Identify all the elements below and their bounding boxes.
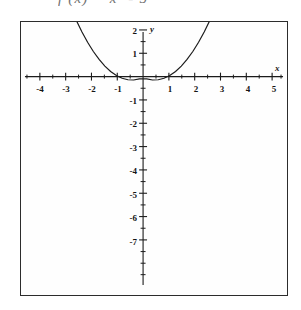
y-tick-label-neg3: -3 [120, 143, 137, 153]
y-tick-label-neg2: -2 [120, 119, 137, 129]
x-tick-label-neg2: -2 [88, 84, 96, 94]
x-tick-label-4: 4 [246, 84, 251, 94]
x-tick-label-5: 5 [272, 84, 277, 94]
y-axis-label: y [150, 24, 154, 34]
equation-title-strip: f (x) = x2 - 5 [0, 0, 301, 11]
x-axis-label: x [275, 63, 280, 73]
x-tick-label-neg1: -1 [114, 84, 122, 94]
equation-title: f (x) = x2 - 5 [58, 0, 148, 7]
x-tick-label-1: 1 [168, 84, 173, 94]
equation-suffix: - 5 [123, 0, 148, 6]
y-tick-label-1: 1 [124, 49, 137, 59]
x-tick-label-neg3: -3 [62, 84, 70, 94]
graph-frame: -4 -3 -2 -1 1 2 3 4 5 2 1 -1 -2 -3 -4 -5… [20, 21, 288, 296]
y-tick-label-neg5: -5 [120, 190, 137, 200]
y-tick-label-2: 2 [124, 26, 137, 36]
y-tick-label-neg1: -1 [120, 96, 137, 106]
equation-prefix: f (x) = x [58, 0, 118, 6]
x-tick-label-2: 2 [194, 84, 199, 94]
graph-canvas [21, 22, 287, 295]
x-tick-label-3: 3 [220, 84, 225, 94]
y-tick-label-neg6: -6 [120, 213, 137, 223]
y-tick-label-neg7: -7 [120, 237, 137, 247]
x-tick-label-neg4: -4 [36, 84, 44, 94]
y-tick-label-neg4: -4 [120, 166, 137, 176]
